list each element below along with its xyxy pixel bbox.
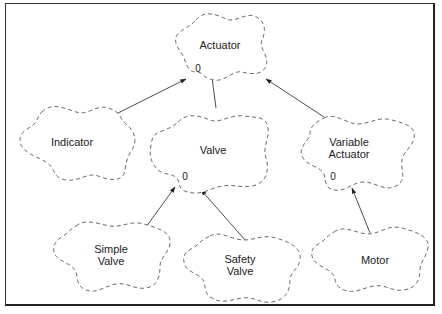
edge-indicator-to-actuator[interactable] (112, 79, 186, 116)
class-label-line-1: Variable (329, 136, 369, 148)
class-label-line-1: Simple (94, 243, 128, 255)
class-label-line-2: Actuator (329, 148, 370, 160)
class-indicator[interactable]: Indicator (20, 107, 135, 181)
class-safety-valve[interactable]: Safety Valve (184, 234, 301, 302)
class-variable-actuator[interactable]: Variable Actuator 0 (301, 116, 414, 190)
class-label: Actuator (200, 39, 241, 51)
multiplicity: 0 (182, 171, 188, 182)
multiplicity: 0 (330, 171, 336, 182)
class-simple-valve[interactable]: Simple Valve (54, 222, 171, 291)
edge-variable-actuator-to-actuator[interactable] (266, 79, 324, 117)
class-label: Valve (200, 144, 227, 156)
class-label: Indicator (51, 136, 94, 148)
class-motor[interactable]: Motor (312, 227, 428, 291)
class-label-line-2: Valve (227, 265, 254, 277)
edge-simple-valve-to-valve[interactable] (146, 187, 175, 227)
class-label: Motor (361, 254, 389, 266)
class-actuator[interactable]: Actuator 0 (176, 14, 267, 80)
class-diagram: Actuator 0 Indicator Valve 0 Variable Ac… (0, 0, 442, 314)
class-valve[interactable]: Valve 0 (150, 116, 268, 193)
class-label-line-1: Safety (224, 253, 256, 265)
multiplicity: 0 (195, 63, 201, 74)
edge-motor-to-variable-actuator[interactable] (352, 188, 370, 233)
edge-safety-valve-to-valve[interactable] (201, 190, 246, 241)
class-label-line-2: Valve (98, 255, 125, 267)
